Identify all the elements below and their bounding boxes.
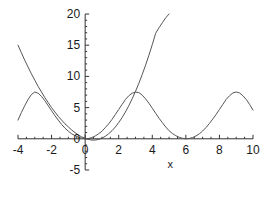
data-series-group bbox=[18, 14, 253, 140]
y-tick-label: -5 bbox=[69, 164, 80, 176]
chart-plot-area: -4-20246810 -505101520 x bbox=[0, 0, 269, 199]
x-tick-label: 0 bbox=[82, 144, 89, 156]
x-tick-label: -4 bbox=[13, 144, 24, 156]
x-axis-label: x bbox=[167, 159, 173, 170]
series-oscillating-bump-curve bbox=[18, 92, 253, 139]
y-tick-label: 15 bbox=[67, 39, 80, 51]
x-tick-label: 8 bbox=[216, 144, 223, 156]
y-tick-label: 5 bbox=[73, 102, 80, 114]
x-tick-label: 4 bbox=[149, 144, 156, 156]
x-tick-label: -2 bbox=[46, 144, 57, 156]
y-tick-label: 10 bbox=[67, 70, 80, 82]
y-tick-label: 20 bbox=[67, 8, 80, 20]
x-tick-label: 6 bbox=[183, 144, 190, 156]
chart-svg bbox=[0, 0, 269, 199]
x-tick-label: 10 bbox=[246, 144, 259, 156]
series-steep-curve bbox=[18, 14, 169, 140]
x-tick-label: 2 bbox=[115, 144, 122, 156]
y-tick-label: 0 bbox=[73, 133, 80, 145]
